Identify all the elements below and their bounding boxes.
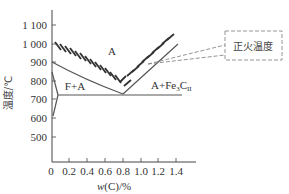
x-tick-0.6: 0.6: [98, 165, 112, 177]
y-tick-1100: 1 100: [22, 19, 47, 31]
region-label-austenite-cementite: A+Fe3CII: [151, 79, 192, 93]
y-tick-1000: 1 000: [22, 38, 47, 50]
pq-line: [53, 95, 58, 116]
gp-line: [52, 72, 58, 95]
x-ticks: 0 0.2 0.4 0.6 0.8 1.0 1.2 1.4: [48, 158, 183, 177]
callout-leader-lower: [148, 55, 225, 64]
callout-label: 正火温度: [233, 40, 273, 52]
y-tick-900: 900: [31, 56, 48, 68]
y-tick-600: 600: [31, 112, 48, 124]
x-tick-0.4: 0.4: [80, 165, 94, 177]
x-tick-1.0: 1.0: [134, 165, 148, 177]
x-axis-title: w(C)/%: [97, 180, 131, 193]
x-tick-0: 0: [48, 165, 54, 177]
y-axis-title: 温度/℃: [2, 76, 14, 111]
y-ticks: 500 600 700 800 900 1 000 1 100: [22, 19, 56, 143]
region-label-austenite: A: [108, 45, 116, 57]
x-tick-1.4: 1.4: [169, 165, 183, 177]
x-tick-1.2: 1.2: [151, 165, 165, 177]
region-label-ferrite-austenite: F+A: [65, 80, 85, 92]
y-tick-700: 700: [31, 93, 48, 105]
phase-diagram: 500 600 700 800 900 1 000 1 100 0 0.2 0.…: [0, 0, 289, 194]
a3-line: [52, 62, 123, 94]
x-tick-0.8: 0.8: [116, 165, 130, 177]
y-tick-500: 500: [31, 131, 48, 143]
x-tick-0.2: 0.2: [62, 165, 76, 177]
y-tick-800: 800: [31, 75, 48, 87]
